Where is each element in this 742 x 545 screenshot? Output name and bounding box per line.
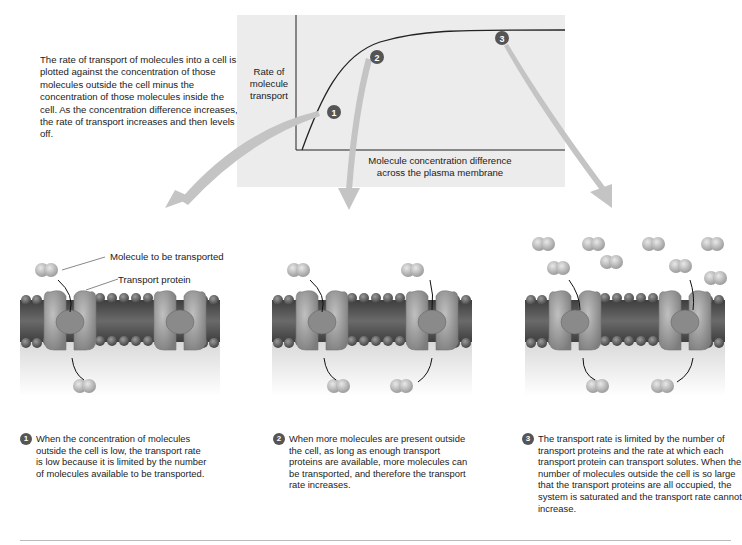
caption-1: 1 When the concentration of molecules ou…: [20, 433, 210, 479]
svg-text:3: 3: [499, 34, 504, 44]
caption-badge-3: 3: [522, 433, 534, 445]
graph-plot: [296, 15, 565, 150]
caption-badge-1: 1: [20, 433, 32, 445]
caption-2-text: When more molecules are present outside …: [273, 433, 473, 491]
molecule-label: Molecule to be transported: [110, 251, 224, 262]
transport-protein-label: Transport protein: [118, 274, 191, 285]
bottom-divider: [20, 540, 731, 541]
caption-1-text: When the concentration of molecules outs…: [20, 433, 210, 479]
graph-marker-2: 2: [370, 50, 384, 64]
caption-3: 3 The transport rate is limited by the n…: [522, 433, 742, 514]
connector-arrows: [165, 44, 612, 210]
graph-marker-1: 1: [327, 105, 341, 119]
svg-text:2: 2: [374, 53, 379, 63]
membrane-panel-3: [525, 237, 727, 396]
membrane-panel-2: [272, 263, 472, 396]
graph-marker-3: 3: [495, 31, 509, 45]
caption-badge-2: 2: [273, 433, 285, 445]
caption-2: 2 When more molecules are present outsid…: [273, 433, 473, 491]
caption-3-text: The transport rate is limited by the num…: [522, 433, 742, 514]
svg-text:1: 1: [331, 108, 336, 118]
